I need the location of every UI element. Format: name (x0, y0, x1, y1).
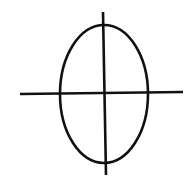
horizontal-axis-line (20, 92, 183, 94)
diagram-canvas (0, 0, 190, 179)
vertical-axis-line (103, 12, 106, 175)
